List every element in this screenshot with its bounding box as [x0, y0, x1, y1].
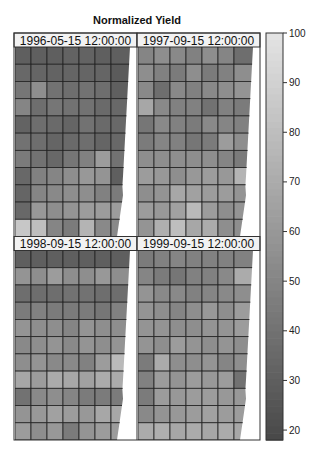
heatmap-cell: [47, 302, 63, 319]
heatmap-cell: [95, 219, 111, 236]
panel-cells: [15, 251, 139, 441]
heatmap-cell: [218, 185, 234, 202]
heatmap-cell: [79, 285, 95, 302]
heatmap-cell: [234, 354, 262, 371]
heatmap-cell: [218, 81, 234, 98]
heatmap-cell: [63, 202, 79, 219]
colorbar-segment: [266, 223, 283, 230]
heatmap-cell: [218, 202, 234, 219]
colorbar-segment: [266, 80, 283, 87]
colorbar-segment: [266, 182, 283, 189]
heatmap-cell: [63, 133, 79, 150]
heatmap-cell: [111, 47, 139, 64]
heatmap-cell: [47, 47, 63, 64]
heatmap-cell: [138, 219, 154, 236]
heatmap-cell: [31, 185, 47, 202]
heatmap-cell: [47, 150, 63, 167]
colorbar-segment: [266, 87, 283, 94]
colorbar-tick-label: 100: [289, 28, 306, 39]
heatmap-cell: [31, 371, 47, 388]
heatmap-cell: [63, 423, 79, 440]
heatmap-cell: [202, 168, 218, 185]
heatmap-cell: [79, 81, 95, 98]
heatmap-cell: [15, 406, 31, 423]
heatmap-cell: [47, 354, 63, 371]
heatmap-cell: [95, 337, 111, 354]
heatmap-cell: [111, 251, 139, 268]
colorbar-segment: [266, 379, 283, 386]
colorbar-segment: [266, 270, 283, 277]
colorbar-segment: [266, 189, 283, 196]
panel-2: 1997-09-15 12:00:00: [137, 33, 262, 237]
heatmap-cell: [63, 319, 79, 336]
heatmap-cell: [154, 319, 170, 336]
heatmap-cell: [202, 285, 218, 302]
heatmap-cell: [79, 354, 95, 371]
heatmap-cell: [154, 371, 170, 388]
colorbar-segment: [266, 393, 283, 400]
heatmap-cell: [234, 133, 262, 150]
heatmap-cell: [138, 302, 154, 319]
heatmap-cell: [170, 185, 186, 202]
heatmap-cell: [15, 81, 31, 98]
heatmap-cell: [218, 133, 234, 150]
heatmap-cell: [154, 337, 170, 354]
heatmap-cell: [202, 302, 218, 319]
heatmap-cell: [47, 116, 63, 133]
heatmap-cell: [47, 168, 63, 185]
heatmap-cell: [202, 81, 218, 98]
heatmap-cell: [170, 116, 186, 133]
heatmap-cell: [63, 150, 79, 167]
panel-4: 1999-09-15 12:00:00: [137, 237, 262, 441]
heatmap-cell: [111, 319, 139, 336]
heatmap-cell: [234, 150, 262, 167]
heatmap-cell: [138, 423, 154, 440]
heatmap-cell: [170, 285, 186, 302]
heatmap-cell: [186, 168, 202, 185]
heatmap-cell: [154, 81, 170, 98]
heatmap-cell: [186, 133, 202, 150]
heatmap-cell: [47, 423, 63, 440]
heatmap-cell: [234, 319, 262, 336]
colorbar-segment: [266, 40, 283, 47]
heatmap-cell: [138, 185, 154, 202]
heatmap-cell: [111, 99, 139, 116]
heatmap-cell: [47, 406, 63, 423]
heatmap-cell: [138, 388, 154, 405]
heatmap-cell: [186, 406, 202, 423]
colorbar-tick-label: 80: [289, 127, 301, 138]
colorbar: 2030405060708090100: [266, 28, 306, 441]
heatmap-cell: [170, 371, 186, 388]
colorbar-segment: [266, 74, 283, 81]
heatmap-cell: [47, 319, 63, 336]
colorbar-segment: [266, 399, 283, 406]
heatmap-cell: [170, 64, 186, 81]
heatmap-cell: [234, 302, 262, 319]
heatmap-cell: [111, 219, 139, 236]
heatmap-cell: [79, 47, 95, 64]
heatmap-cell: [15, 371, 31, 388]
heatmap-cell: [111, 150, 139, 167]
heatmap-cell: [111, 371, 139, 388]
heatmap-cell: [95, 319, 111, 336]
colorbar-segment: [266, 237, 283, 244]
heatmap-cell: [15, 319, 31, 336]
panel-cells: [138, 251, 262, 441]
heatmap-cell: [138, 150, 154, 167]
heatmap-cell: [15, 150, 31, 167]
heatmap-cell: [170, 150, 186, 167]
colorbar-segment: [266, 121, 283, 128]
heatmap-cell: [186, 354, 202, 371]
heatmap-cell: [63, 406, 79, 423]
heatmap-cell: [154, 302, 170, 319]
heatmap-cell: [79, 116, 95, 133]
heatmap-cell: [234, 219, 262, 236]
heatmap-cell: [31, 116, 47, 133]
panel-strip-label: 1998-09-15 12:00:00: [20, 237, 132, 251]
heatmap-cell: [111, 64, 139, 81]
colorbar-segment: [266, 114, 283, 121]
heatmap-cell: [79, 319, 95, 336]
heatmap-cell: [111, 388, 139, 405]
heatmap-cell: [218, 388, 234, 405]
colorbar-segment: [266, 128, 283, 135]
